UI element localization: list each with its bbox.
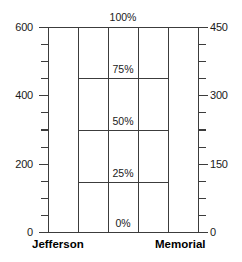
series-name-jefferson: Jefferson: [32, 238, 84, 250]
percent-label-0: 0%: [102, 218, 144, 229]
left-axis-tick-label-200: 200: [3, 159, 33, 170]
percent-label-25: 25%: [102, 168, 144, 179]
series-name-memorial: Memorial: [155, 238, 206, 250]
percent-label-50: 50%: [102, 116, 144, 127]
percent-label-100: 100%: [102, 12, 144, 23]
right-axis-minor-ticks: [198, 45, 206, 216]
left-axis-tick-label-600: 600: [3, 22, 33, 33]
right-axis-tick-label-0: 0: [210, 227, 240, 238]
percent-label-75: 75%: [102, 64, 144, 75]
vertical-rules: [49, 27, 199, 232]
right-axis-tick-label-450: 450: [210, 22, 240, 33]
left-axis-tick-label-0: 0: [3, 227, 33, 238]
left-axis-minor-ticks: [41, 45, 49, 216]
nomogram-chart: 600 400 200 0 450 300 150 0 100% 75% 50%…: [0, 0, 242, 262]
right-axis-tick-label-150: 150: [210, 159, 240, 170]
left-axis-tick-label-400: 400: [3, 90, 33, 101]
right-axis-tick-label-300: 300: [210, 90, 240, 101]
